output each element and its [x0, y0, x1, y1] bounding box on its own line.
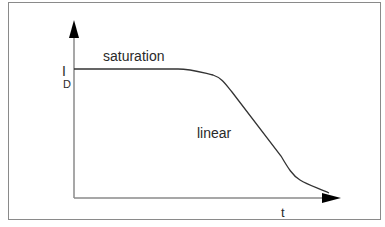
y-axis-arrow-icon	[69, 20, 79, 38]
y-axis-label: I	[62, 64, 66, 78]
id-vs-t-plot	[0, 0, 385, 227]
y-axis-subscript: D	[63, 79, 71, 90]
linear-label: linear	[197, 126, 231, 140]
saturation-label: saturation	[103, 49, 164, 63]
x-axis-label: t	[281, 206, 285, 219]
x-axis-arrow-icon	[322, 193, 341, 203]
